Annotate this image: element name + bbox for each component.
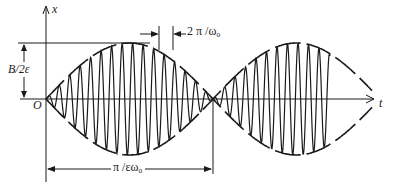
x-axis-label: x [52, 2, 57, 17]
beat-half-period-label: π /εω₀ [111, 160, 145, 175]
t-axis-label: t [379, 96, 382, 111]
origin-label: O [33, 98, 42, 113]
amplitude-label: B/2ε [8, 62, 29, 77]
beat-diagram: x t O B/2ε 2 π /ω₀ π /εω₀ [0, 0, 399, 190]
carrier-period-label: 2 π /ω₀ [187, 24, 220, 39]
